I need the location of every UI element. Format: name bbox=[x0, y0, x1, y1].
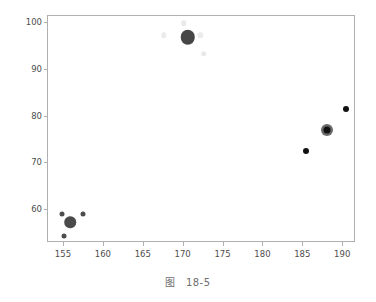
x-tick-label: 160 bbox=[95, 249, 111, 259]
x-tick-mark bbox=[143, 242, 144, 246]
data-point bbox=[198, 32, 204, 38]
data-point bbox=[60, 211, 65, 216]
y-tick-mark bbox=[44, 116, 48, 117]
plot-area bbox=[47, 15, 355, 242]
x-tick-label: 180 bbox=[254, 249, 270, 259]
y-tick-label: 100 bbox=[14, 17, 42, 27]
y-tick-label: 80 bbox=[14, 111, 42, 121]
data-point bbox=[324, 126, 331, 133]
x-tick-mark bbox=[342, 242, 343, 246]
x-tick-mark bbox=[223, 242, 224, 246]
data-point bbox=[180, 30, 195, 45]
y-tick-mark bbox=[44, 22, 48, 23]
figure-container: 60708090100 155160165170175180185190 图18… bbox=[0, 0, 376, 302]
x-tick-label: 185 bbox=[294, 249, 310, 259]
data-point bbox=[303, 148, 309, 154]
x-tick-label: 190 bbox=[334, 249, 350, 259]
x-tick-label: 170 bbox=[175, 249, 191, 259]
x-tick-mark bbox=[302, 242, 303, 246]
data-point bbox=[181, 20, 187, 26]
y-tick-label: 60 bbox=[14, 204, 42, 214]
x-tick-mark bbox=[63, 242, 64, 246]
data-point bbox=[201, 51, 207, 57]
caption-prefix: 图 bbox=[165, 277, 176, 288]
caption-number: 18-5 bbox=[186, 277, 211, 288]
data-point bbox=[161, 32, 167, 38]
figure-caption: 图18-5 bbox=[0, 274, 376, 289]
scatter-points-layer bbox=[48, 16, 354, 241]
y-tick-mark bbox=[44, 162, 48, 163]
x-tick-label: 155 bbox=[55, 249, 71, 259]
data-point bbox=[65, 217, 77, 229]
x-tick-label: 175 bbox=[214, 249, 230, 259]
y-tick-mark bbox=[44, 209, 48, 210]
x-tick-mark bbox=[183, 242, 184, 246]
y-tick-label: 70 bbox=[14, 157, 42, 167]
data-point bbox=[61, 233, 66, 238]
x-tick-mark bbox=[262, 242, 263, 246]
x-tick-mark bbox=[103, 242, 104, 246]
x-tick-label: 165 bbox=[135, 249, 151, 259]
data-point bbox=[81, 212, 86, 217]
y-tick-mark bbox=[44, 69, 48, 70]
data-point bbox=[343, 106, 349, 112]
y-tick-label: 90 bbox=[14, 64, 42, 74]
